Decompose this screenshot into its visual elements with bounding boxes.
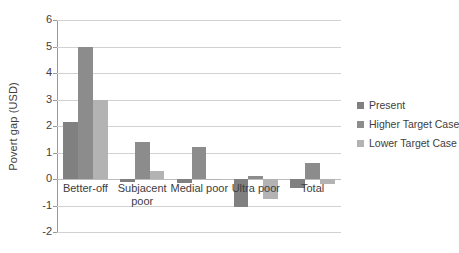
bar: [192, 147, 207, 179]
bar: [206, 179, 221, 180]
plot-area: [57, 20, 341, 232]
y-axis-tick: [53, 153, 57, 154]
y-axis-tick-label: -2: [28, 226, 52, 237]
x-axis-category-label-line: Total: [284, 182, 341, 195]
gridline: [57, 47, 341, 48]
y-axis-tick: [53, 20, 57, 21]
legend-item-label: Lower Target Case: [369, 138, 457, 149]
gridline: [57, 20, 341, 21]
legend: PresentHigher Target CaseLower Target Ca…: [357, 96, 457, 153]
y-axis-tick: [53, 179, 57, 180]
x-axis-category-label-line: poor: [114, 195, 171, 208]
bar: [150, 171, 165, 179]
x-axis-category-label-line: Medial poor: [171, 182, 228, 195]
legend-item-label: Higher Target Case: [369, 119, 459, 130]
gridline: [57, 232, 341, 233]
bar: [63, 122, 78, 179]
legend-item-label: Present: [369, 100, 405, 111]
x-axis-category-label-line: Subjacent: [114, 182, 171, 195]
x-axis-category-label: Total: [284, 182, 341, 195]
legend-swatch-icon: [357, 102, 364, 109]
legend-item[interactable]: Present: [357, 96, 457, 115]
y-axis-tick-labels: -2-10123456: [24, 20, 52, 232]
y-axis-tick-label: 3: [28, 94, 52, 105]
x-axis-category-label-line: Ultra poor: [227, 182, 284, 195]
legend-item[interactable]: Higher Target Case: [357, 115, 457, 134]
bar: [248, 176, 263, 179]
y-axis-tick-label: 6: [28, 14, 52, 25]
legend-item[interactable]: Lower Target Case: [357, 134, 457, 153]
y-axis-title: Povert gap (USD): [2, 0, 24, 253]
gridline: [57, 73, 341, 74]
bar: [93, 100, 108, 180]
y-axis-tick: [53, 47, 57, 48]
x-axis-category-label: Subjacentpoor: [114, 182, 171, 208]
legend-swatch-icon: [357, 140, 364, 147]
y-axis-tick-label: 1: [28, 147, 52, 158]
y-axis-tick-label: 4: [28, 67, 52, 78]
x-axis-category-label: Better-off: [57, 182, 114, 195]
y-axis-tick: [53, 100, 57, 101]
bar: [305, 163, 320, 179]
y-axis-tick: [53, 126, 57, 127]
y-axis-tick: [53, 232, 57, 233]
y-axis-tick: [53, 73, 57, 74]
bar: [78, 47, 93, 180]
y-axis-tick-label: 2: [28, 120, 52, 131]
x-axis-category-label: Medial poor: [171, 182, 228, 195]
y-axis-tick-label: -1: [28, 200, 52, 211]
legend-swatch-icon: [357, 121, 364, 128]
y-axis-tick-label: 5: [28, 41, 52, 52]
x-axis-category-label-line: Better-off: [57, 182, 114, 195]
x-axis-category-label: Ultra poor: [227, 182, 284, 195]
y-axis-tick: [53, 206, 57, 207]
y-axis-tick-label: 0: [28, 173, 52, 184]
bar: [135, 142, 150, 179]
gridline: [57, 206, 341, 207]
